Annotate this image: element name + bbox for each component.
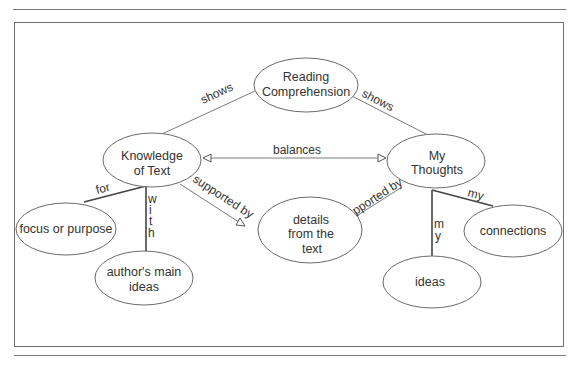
- node-authors-main-ideas: author's main ideas: [95, 251, 193, 305]
- svg-text:focus or purpose: focus or purpose: [19, 222, 112, 236]
- node-my-thoughts: My Thoughts: [387, 134, 485, 188]
- arrowhead-details-left-icon: [236, 218, 245, 226]
- svg-text:from the: from the: [288, 227, 334, 241]
- arrowhead-left-icon: [203, 154, 211, 162]
- svg-text:Knowledge: Knowledge: [121, 149, 183, 163]
- svg-text:connections: connections: [480, 224, 547, 238]
- arrowhead-right-icon: [378, 154, 386, 162]
- node-knowledge-of-text: Knowledge of Text: [103, 133, 201, 187]
- svg-text:text: text: [302, 242, 323, 256]
- edge-knowledge-focus: [84, 186, 146, 202]
- svg-text:of Text: of Text: [134, 164, 171, 178]
- node-reading-comprehension: Reading Comprehension: [254, 58, 358, 112]
- svg-text:details: details: [293, 213, 329, 227]
- svg-text:author's main: author's main: [107, 265, 182, 279]
- edge-label-h: h: [148, 226, 155, 240]
- svg-text:Comprehension: Comprehension: [262, 85, 350, 99]
- edge-label-balances: balances: [273, 143, 321, 157]
- svg-text:Thoughts: Thoughts: [411, 163, 463, 177]
- node-ideas: ideas: [383, 256, 481, 308]
- node-details-from-the-text: details from the text: [258, 197, 362, 263]
- node-focus-or-purpose: focus or purpose: [16, 203, 116, 255]
- svg-text:ideas: ideas: [129, 280, 159, 294]
- edge-label-for: for: [94, 180, 111, 197]
- svg-text:Reading: Reading: [283, 70, 330, 84]
- svg-text:ideas: ideas: [415, 275, 445, 289]
- node-connections: connections: [464, 205, 562, 257]
- concept-map: shows shows balances supported by suppor…: [0, 0, 581, 365]
- edge-label-y: y: [435, 229, 441, 243]
- svg-text:My: My: [429, 149, 446, 163]
